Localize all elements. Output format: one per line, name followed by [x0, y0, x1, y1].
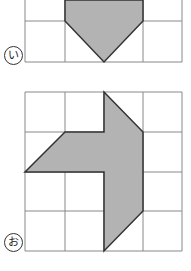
- figures-canvas: [0, 0, 191, 271]
- shape-o: [25, 92, 143, 251]
- shape-i: [65, 0, 143, 62]
- label-o: お: [4, 233, 23, 252]
- label-i: い: [4, 46, 23, 65]
